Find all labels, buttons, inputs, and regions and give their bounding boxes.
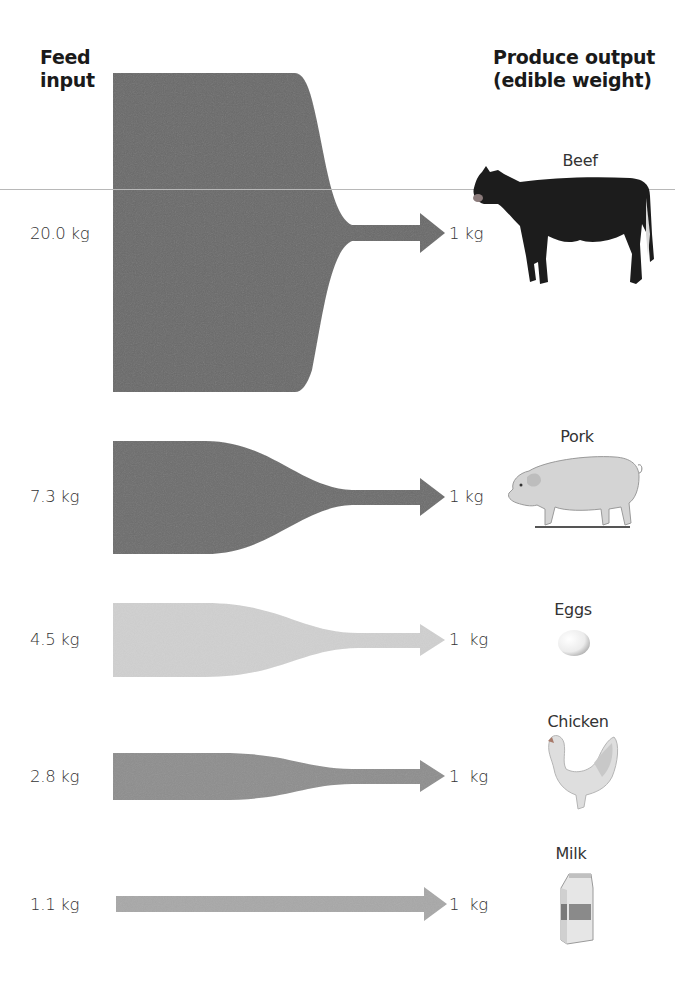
chicken-flow <box>113 753 445 800</box>
chicken-output-label: 1 kg <box>449 767 488 786</box>
pig-icon <box>505 447 645 532</box>
pork-input-label: 7.3 kg <box>30 487 110 506</box>
milk-product-label: Milk <box>526 844 616 863</box>
cow-icon <box>470 164 660 294</box>
egg-icon <box>556 628 592 658</box>
milk-flow <box>116 887 447 921</box>
milk-output-label: 1 kg <box>449 895 488 914</box>
milk-carton-icon <box>557 870 597 946</box>
pork-output-label: 1 kg <box>449 487 483 506</box>
pork-flow <box>113 441 445 554</box>
chicken-input-label: 2.8 kg <box>30 767 110 786</box>
pork-product-label: Pork <box>532 427 622 446</box>
beef-input-label: 20.0 kg <box>30 224 110 243</box>
beef-flow <box>113 73 445 392</box>
chicken-product-label: Chicken <box>533 712 623 731</box>
eggs-input-label: 4.5 kg <box>30 630 110 649</box>
eggs-flow <box>113 603 445 677</box>
eggs-output-label: 1 kg <box>449 630 488 649</box>
eggs-product-label: Eggs <box>528 600 618 619</box>
chicken-icon <box>542 733 622 815</box>
milk-input-label: 1.1 kg <box>30 895 110 914</box>
